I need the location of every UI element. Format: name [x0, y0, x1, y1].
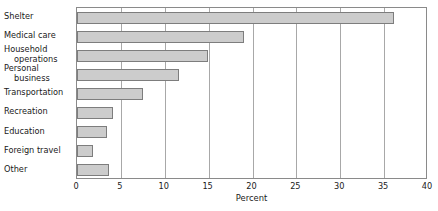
bar-row: [77, 50, 208, 62]
bar: [77, 69, 179, 81]
x-axis-tick-label: 25: [290, 181, 300, 191]
bar-row: [77, 145, 93, 157]
bar-row: [77, 126, 107, 138]
bar: [77, 126, 107, 138]
bar-row: [77, 88, 143, 100]
x-axis-tick-label: 35: [378, 181, 388, 191]
bar-row: [77, 12, 394, 24]
bar: [77, 107, 113, 119]
plot-area: [76, 7, 427, 179]
bar-row: [77, 31, 244, 43]
x-axis-tick-labels: 0510152025303540: [0, 181, 438, 193]
x-axis-tick-label: 20: [246, 181, 256, 191]
category-label-line: Medical care: [0, 31, 70, 40]
category-label: Recreation: [0, 107, 70, 116]
bar: [77, 50, 208, 62]
category-axis-labels: ShelterMedical careHouseholdoperationsPe…: [0, 7, 73, 179]
x-axis-tick-label: 10: [159, 181, 169, 191]
bar: [77, 164, 109, 176]
category-label: Personalbusiness: [0, 64, 70, 83]
bar: [77, 31, 244, 43]
bar-row: [77, 107, 113, 119]
bar: [77, 145, 93, 157]
bar: [77, 12, 394, 24]
category-label-line: Transportation: [0, 88, 70, 97]
x-axis-title: Percent: [76, 193, 427, 204]
category-label: Education: [0, 127, 70, 136]
category-label-line: Recreation: [0, 107, 70, 116]
x-axis-tick-label: 30: [334, 181, 344, 191]
bar-row: [77, 164, 109, 176]
x-axis-tick-label: 5: [117, 181, 122, 191]
category-label-line: business: [0, 74, 70, 83]
x-axis-tick-label: 0: [73, 181, 78, 191]
x-axis-tick-label: 15: [202, 181, 212, 191]
bar-chart: ShelterMedical careHouseholdoperationsPe…: [0, 0, 438, 211]
category-label-line: Other: [0, 165, 70, 174]
category-label: Transportation: [0, 88, 70, 97]
bar-row: [77, 69, 179, 81]
category-label: Medical care: [0, 31, 70, 40]
category-label-line: Education: [0, 127, 70, 136]
category-label: Other: [0, 165, 70, 174]
category-label: Shelter: [0, 12, 70, 21]
bar: [77, 88, 143, 100]
bars-layer: [77, 8, 426, 178]
x-axis-tick-label: 40: [422, 181, 432, 191]
category-label-line: Foreign travel: [0, 146, 70, 155]
category-label: Householdoperations: [0, 45, 70, 64]
category-label-line: Shelter: [0, 12, 70, 21]
category-label: Foreign travel: [0, 146, 70, 155]
